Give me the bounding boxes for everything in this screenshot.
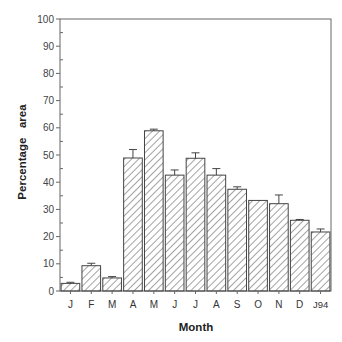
bar (311, 229, 330, 291)
x-tick-label: M (108, 299, 116, 310)
y-tick-label: 100 (37, 14, 54, 25)
x-tick-label: D (296, 299, 303, 310)
x-tick-label: J94 (313, 299, 328, 310)
y-axis: 0102030405060708090100 (37, 14, 63, 297)
x-tick-label: J (68, 299, 73, 310)
y-tick-label: 40 (43, 177, 55, 188)
bar (290, 219, 309, 291)
y-tick-label: 0 (48, 286, 54, 297)
bar (82, 263, 101, 291)
y-tick-label: 20 (43, 231, 55, 242)
bar (103, 277, 122, 291)
bar (228, 187, 247, 291)
y-tick-label: 70 (43, 95, 55, 106)
y-tick-label: 90 (43, 41, 55, 52)
bar (124, 150, 143, 291)
x-tick-label: M (150, 299, 158, 310)
y-tick-label: 60 (43, 122, 55, 133)
x-axis-title: Month (179, 321, 213, 333)
bar-chart: 0102030405060708090100 JFMAMJJASONDJ94 M… (0, 0, 342, 342)
bar (249, 200, 268, 291)
y-tick-label: 10 (43, 258, 55, 269)
x-tick-label: J (172, 299, 177, 310)
x-tick-label: A (130, 299, 137, 310)
x-axis: JFMAMJJASONDJ94 (68, 291, 328, 310)
bar (270, 195, 289, 291)
x-tick-label: J (193, 299, 198, 310)
x-tick-label: S (234, 299, 241, 310)
y-tick-label: 50 (43, 150, 55, 161)
x-tick-label: A (213, 299, 220, 310)
x-tick-label: O (254, 299, 262, 310)
bar (165, 170, 184, 291)
y-tick-label: 30 (43, 204, 55, 215)
bar (207, 169, 226, 291)
bar (144, 129, 163, 291)
x-tick-label: N (275, 299, 282, 310)
bar (61, 282, 80, 291)
x-tick-label: F (88, 299, 94, 310)
y-axis-title: Percentage area (16, 104, 28, 200)
bars (61, 129, 330, 291)
bar (186, 153, 205, 291)
y-tick-label: 80 (43, 68, 55, 79)
